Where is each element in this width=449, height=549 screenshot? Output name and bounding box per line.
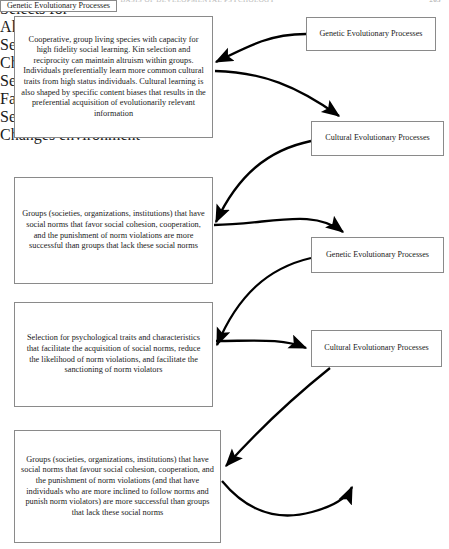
node-selection-psychological-traits[interactable]: Selection for psychological traits and c… [14, 302, 213, 407]
evolution-flow-diagram: Cooperative, group living species with c… [0, 0, 449, 549]
edge-facilitates [216, 341, 306, 348]
node-cultural-evolutionary-processes-1[interactable]: Cultural Evolutionary Processes [311, 121, 444, 156]
node-groups-social-norms-1[interactable]: Groups (societies, organizations, instit… [14, 177, 213, 284]
node-genetic-evolutionary-processes-1[interactable]: Genetic Evolutionary Processes [306, 17, 436, 51]
node-groups-social-norms-2-label: Groups (societies, organizations, instit… [15, 455, 220, 519]
edge-selects-for-3 [217, 258, 311, 345]
node-genetic-evolutionary-processes-3[interactable]: Genetic Evolutionary Processes [0, 0, 117, 12]
node-selection-psychological-traits-label: Selection for psychological traits and c… [15, 333, 212, 375]
edge-selects-for-1 [216, 34, 306, 62]
edge-selects-for-2 [216, 141, 311, 222]
node-groups-social-norms-2[interactable]: Groups (societies, organizations, instit… [14, 430, 221, 543]
edge-changes-environment-1 [214, 219, 343, 232]
node-groups-social-norms-1-label: Groups (societies, organizations, instit… [15, 209, 212, 251]
edge-allows-for [215, 71, 339, 116]
node-cultural-evolutionary-processes-2-label: Cultural Evolutionary Processes [312, 343, 441, 353]
edge-changes-environment-2 [222, 481, 352, 515]
node-genetic-evolutionary-processes-2-label: Genetic Evolutionary Processes [312, 250, 443, 260]
node-cultural-evolutionary-processes-2[interactable]: Cultural Evolutionary Processes [311, 330, 442, 367]
node-genetic-evolutionary-processes-3-label: Genetic Evolutionary Processes [1, 1, 116, 11]
node-cooperative-species-label: Cooperative, group living species with c… [15, 35, 212, 120]
node-genetic-evolutionary-processes-2[interactable]: Genetic Evolutionary Processes [311, 237, 444, 273]
node-genetic-evolutionary-processes-1-label: Genetic Evolutionary Processes [307, 29, 435, 39]
node-cultural-evolutionary-processes-1-label: Cultural Evolutionary Processes [312, 133, 443, 143]
edge-selects-for-4 [226, 368, 330, 466]
node-cooperative-species[interactable]: Cooperative, group living species with c… [14, 16, 213, 138]
